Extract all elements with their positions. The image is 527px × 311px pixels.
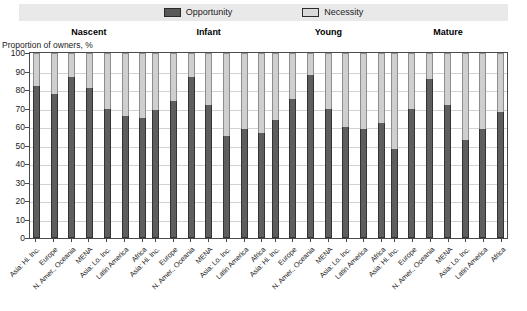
stacked-bar[interactable] — [122, 53, 129, 238]
bar-segment-opportunity — [289, 99, 296, 238]
bar-segment-opportunity — [391, 149, 398, 238]
stacked-bar[interactable] — [479, 53, 486, 238]
bar-segment-necessity — [152, 53, 159, 110]
legend-item-opportunity: Opportunity — [164, 8, 233, 17]
y-axis-tick-20: 20 — [16, 197, 25, 206]
stacked-bar[interactable] — [360, 53, 367, 238]
stacked-bar[interactable] — [223, 53, 230, 238]
y-axis-tick-100: 100 — [11, 49, 25, 58]
legend-item-necessity: Necessity — [302, 8, 363, 17]
stacked-bar[interactable] — [272, 53, 279, 238]
group-header-young: Young — [269, 26, 389, 38]
stacked-bar[interactable] — [104, 53, 111, 238]
bar-group-young — [269, 53, 388, 238]
stacked-bar[interactable] — [342, 53, 349, 238]
x-axis-label: N. Amer., Oceania — [187, 243, 194, 311]
bar-segment-necessity — [307, 53, 314, 75]
stacked-bar[interactable] — [68, 53, 75, 238]
stacked-bar[interactable] — [170, 53, 177, 238]
stacked-bar[interactable] — [426, 53, 433, 238]
x-axis-label-text: Asia: Hi. Inc. — [7, 245, 41, 279]
x-axis-labels: Asia: Hi. Inc.EuropeN. Amer., OceaniaMEN… — [29, 243, 508, 311]
bar-segment-opportunity — [378, 123, 385, 238]
stacked-bar[interactable] — [205, 53, 212, 238]
bar-segment-necessity — [51, 53, 58, 94]
group-header-nascent: Nascent — [29, 26, 149, 38]
bar-segment-opportunity — [258, 133, 265, 238]
bar-segment-opportunity — [223, 136, 230, 238]
stacked-bar[interactable] — [152, 53, 159, 238]
bar-segment-opportunity — [139, 118, 146, 238]
bar-segment-opportunity — [33, 86, 40, 238]
bar-group-nascent — [30, 53, 149, 238]
chart-plot-area — [29, 52, 508, 239]
x-label-group-nascent: Asia: Hi. Inc.EuropeN. Amer., OceaniaMEN… — [29, 243, 149, 311]
bar-segment-necessity — [272, 53, 279, 120]
x-axis-label: Latin America — [360, 243, 367, 311]
stacked-bar[interactable] — [497, 53, 504, 238]
stacked-bar[interactable] — [139, 53, 146, 238]
stacked-bar[interactable] — [33, 53, 40, 238]
x-axis-label: N. Amer., Oceania — [68, 243, 75, 311]
bar-segment-opportunity — [479, 129, 486, 238]
bar-segment-necessity — [462, 53, 469, 140]
bar-segment-necessity — [342, 53, 349, 127]
stacked-bar[interactable] — [289, 53, 296, 238]
bar-segment-necessity — [497, 53, 504, 112]
bar-segment-opportunity — [152, 110, 159, 238]
bar-segment-opportunity — [307, 75, 314, 238]
bar-segment-necessity — [139, 53, 146, 118]
bar-segment-opportunity — [426, 79, 433, 238]
bar-segment-necessity — [86, 53, 93, 88]
x-axis-label: Africa — [258, 243, 265, 311]
y-axis-tick-10: 10 — [16, 215, 25, 224]
bar-segment-opportunity — [342, 127, 349, 238]
stacked-bar[interactable] — [391, 53, 398, 238]
stacked-bar[interactable] — [444, 53, 451, 238]
stacked-bar[interactable] — [325, 53, 332, 238]
bar-segment-necessity — [188, 53, 195, 77]
bar-segment-opportunity — [408, 109, 415, 239]
bar-segment-necessity — [104, 53, 111, 109]
bar-segment-necessity — [223, 53, 230, 136]
y-axis-tick-80: 80 — [16, 86, 25, 95]
bar-segment-opportunity — [360, 129, 367, 238]
y-axis-tick-30: 30 — [16, 178, 25, 187]
chart-legend: Opportunity Necessity — [19, 4, 508, 21]
bar-segment-necessity — [479, 53, 486, 129]
bar-segment-opportunity — [444, 105, 451, 238]
x-axis-label: Latin America — [480, 243, 487, 311]
x-axis-label: Latin America — [121, 243, 128, 311]
stacked-bar[interactable] — [51, 53, 58, 238]
x-axis-label: Africa — [139, 243, 146, 311]
bar-segment-opportunity — [462, 140, 469, 238]
stacked-bar[interactable] — [86, 53, 93, 238]
y-axis-tick-60: 60 — [16, 123, 25, 132]
x-label-group-infant: Asia: Hi. Inc.EuropeN. Amer., OceaniaMEN… — [149, 243, 269, 311]
bar-segment-necessity — [170, 53, 177, 101]
bar-segment-opportunity — [86, 88, 93, 238]
bar-segment-necessity — [258, 53, 265, 133]
stacked-bar[interactable] — [188, 53, 195, 238]
bar-segment-opportunity — [104, 109, 111, 239]
legend-swatch-necessity-icon — [302, 8, 319, 17]
x-axis-label: Latin America — [241, 243, 248, 311]
stacked-bar[interactable] — [241, 53, 248, 238]
bar-segment-opportunity — [205, 105, 212, 238]
group-header-infant: Infant — [149, 26, 269, 38]
stacked-bar[interactable] — [307, 53, 314, 238]
stacked-bar[interactable] — [258, 53, 265, 238]
bar-segment-necessity — [360, 53, 367, 129]
bar-segment-necessity — [325, 53, 332, 109]
stacked-bar[interactable] — [408, 53, 415, 238]
stacked-bar[interactable] — [462, 53, 469, 238]
bar-segment-necessity — [33, 53, 40, 86]
y-axis-tick-40: 40 — [16, 160, 25, 169]
x-axis-label: N. Amer., Oceania — [427, 243, 434, 311]
stacked-bar[interactable] — [378, 53, 385, 238]
bar-segment-opportunity — [68, 77, 75, 238]
bar-segment-necessity — [426, 53, 433, 79]
bar-segment-necessity — [408, 53, 415, 109]
bar-segment-necessity — [378, 53, 385, 123]
y-axis-tick-50: 50 — [16, 141, 25, 150]
